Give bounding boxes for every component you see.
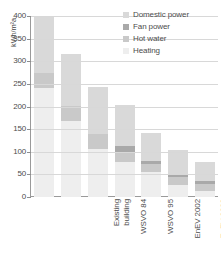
y-axis-tick: [27, 39, 31, 40]
bar-segment: [195, 162, 215, 181]
bar-segment: [61, 121, 81, 197]
legend-item-label: Fan power: [133, 22, 170, 31]
y-axis-tick-labels: 400350300250200150100500: [0, 16, 26, 197]
chart-legend: Domestic powerFan powerHot waterHeating: [123, 9, 219, 57]
bar-segment: [115, 152, 135, 162]
bar-segment: [141, 161, 161, 164]
y-axis-tick: [27, 61, 31, 62]
gridline: [31, 84, 218, 85]
legend-swatch-icon: [123, 12, 129, 18]
legend-swatch-icon: [123, 24, 129, 30]
gridline: [31, 107, 218, 108]
y-axis-tick: [27, 197, 31, 198]
gridline: [31, 129, 218, 130]
y-axis-tick: [27, 107, 31, 108]
bar-segment: [115, 105, 135, 146]
bar-segment: [195, 181, 215, 184]
y-axis-tick-label: 150: [13, 124, 26, 133]
bar-segment: [168, 185, 188, 197]
bar-segment: [195, 184, 215, 191]
legend-item-label: Hot water: [133, 34, 166, 43]
energy-consumption-chart: kWh/m²a 400350300250200150100500 Domesti…: [0, 0, 221, 263]
y-axis-tick: [27, 84, 31, 85]
legend-swatch-icon: [123, 36, 129, 42]
x-axis-tick-labels: Existing buildingWSVO 84WSVO 95EnEV 2002…: [31, 199, 218, 263]
bar-segment: [34, 88, 54, 197]
y-axis-tick-label: 250: [13, 79, 26, 88]
x-axis-tick-label: EnEV 2002: [193, 199, 203, 263]
bar-segment: [88, 134, 108, 148]
bar-segment: [61, 106, 81, 121]
bar-segment: [141, 172, 161, 197]
y-axis-tick-label: 300: [13, 56, 26, 65]
bar-segment: [34, 73, 54, 89]
bar-segment: [141, 164, 161, 171]
legend-item-label: Heating: [133, 46, 160, 55]
bar-segment: [88, 87, 108, 134]
legend-item: Fan power: [123, 21, 219, 32]
gridline: [31, 61, 218, 62]
y-axis-tick-label: 100: [13, 147, 26, 156]
legend-item-label: Domestic power: [133, 10, 189, 19]
y-axis-tick: [27, 174, 31, 175]
legend-swatch-icon: [123, 48, 129, 54]
bar-segment: [195, 191, 215, 197]
y-axis-tick: [27, 152, 31, 153]
y-axis-tick-label: 0: [22, 192, 26, 201]
bar-segment: [88, 149, 108, 197]
bar-segment: [141, 133, 161, 162]
x-axis-tick-label: WSVO 95: [166, 199, 176, 263]
y-axis-tick-label: 200: [13, 102, 26, 111]
legend-item: Hot water: [123, 33, 219, 44]
y-axis-tick: [27, 129, 31, 130]
y-axis-tick-label: 50: [18, 169, 27, 178]
x-axis-tick-label: Existing building: [112, 199, 131, 263]
y-axis-tick-label: 400: [13, 11, 26, 20]
bar-segment: [34, 17, 54, 72]
x-axis-tick-label: EnEV 2009: [219, 199, 221, 263]
gridline: [31, 174, 218, 175]
y-axis-tick-label: 350: [13, 34, 26, 43]
legend-item: Domestic power: [123, 9, 219, 20]
y-axis-tick: [27, 16, 31, 17]
gridline: [31, 152, 218, 153]
bar-segment: [115, 162, 135, 197]
bar-segment: [168, 177, 188, 185]
legend-item: Heating: [123, 45, 219, 56]
x-axis-tick-label: WSVO 84: [139, 199, 149, 263]
bar-segment: [168, 150, 188, 175]
